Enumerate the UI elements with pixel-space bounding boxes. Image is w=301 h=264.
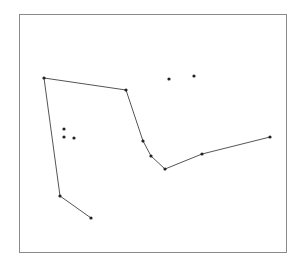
vertex-point — [58, 194, 61, 197]
isolated-point — [192, 74, 195, 77]
diagram-canvas — [0, 0, 301, 264]
polyline-left-chain — [44, 78, 270, 218]
isolated-point — [72, 136, 75, 139]
vertex-point — [200, 152, 203, 155]
diagram-frame — [20, 15, 287, 253]
vertex-point — [124, 88, 127, 91]
polyline-group — [44, 78, 270, 218]
vertex-point — [268, 135, 271, 138]
point-group — [42, 74, 271, 219]
vertex-point — [141, 139, 144, 142]
isolated-point — [167, 77, 170, 80]
isolated-point — [62, 127, 65, 130]
isolated-point — [62, 135, 65, 138]
vertex-point — [42, 76, 45, 79]
vertex-point — [89, 216, 92, 219]
vertex-point — [163, 167, 166, 170]
vertex-point — [149, 154, 152, 157]
